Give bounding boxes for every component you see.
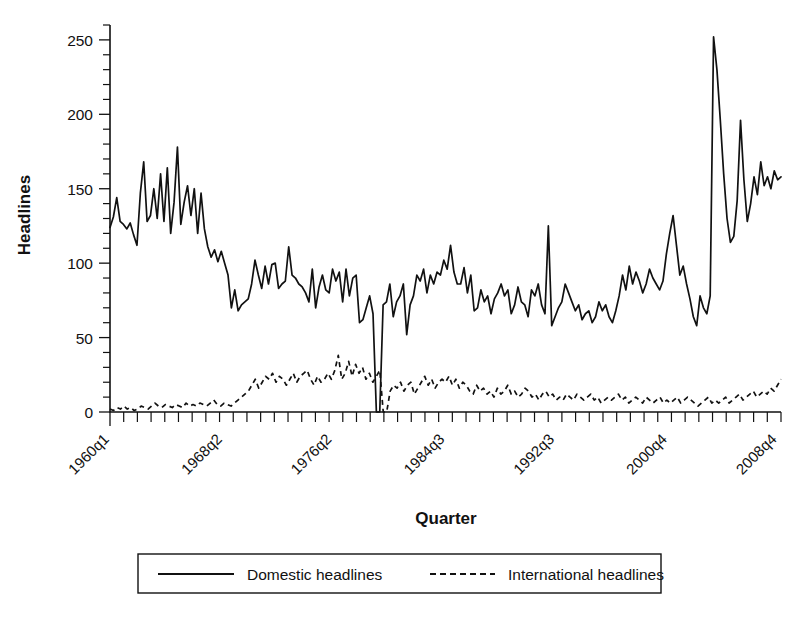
x-tick-label: 2000q4: [623, 430, 670, 477]
y-axis-ticks: 050100150200250: [67, 25, 110, 421]
axis-spines: [110, 25, 781, 412]
chart-legend: Domestic headlines International headlin…: [138, 554, 664, 593]
x-tick-label: 2008q4: [732, 430, 779, 477]
x-axis-ticks: [110, 412, 781, 426]
x-axis-label-text: Quarter: [415, 509, 477, 528]
series-line-domestic-headlines: [110, 37, 781, 412]
chart-figure: Headlines 050100150200250 1960q11968q219…: [0, 0, 793, 618]
x-tick-label: 1992q3: [510, 430, 557, 477]
y-tick-label: 150: [67, 181, 93, 198]
y-axis-label: Headlines: [15, 175, 34, 255]
y-tick-label: 50: [76, 330, 94, 347]
headlines-line-chart: Headlines 050100150200250 1960q11968q219…: [0, 0, 793, 618]
x-tick-label: 1968q2: [178, 430, 225, 477]
x-tick-label: 1976q2: [287, 430, 334, 477]
y-tick-label: 200: [67, 106, 93, 123]
legend-label-domestic-headlines: Domestic headlines: [247, 566, 383, 583]
legend-label-international-headlines: International headlines: [508, 566, 664, 583]
x-tick-label: 1984q3: [400, 430, 447, 477]
y-tick-label: 100: [67, 255, 93, 272]
x-tick-label: 1960q1: [65, 430, 112, 477]
y-axis-label-text: Headlines: [15, 175, 34, 255]
y-tick-label: 0: [84, 404, 93, 421]
y-tick-label: 250: [67, 32, 93, 49]
series-line-international-headlines: [110, 355, 781, 412]
x-axis-tick-labels: 1960q11968q21976q21984q31992q32000q42008…: [65, 430, 780, 477]
